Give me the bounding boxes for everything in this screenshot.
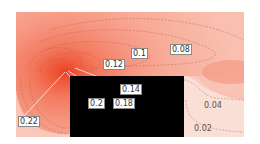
contour-label: 0.02 [193, 124, 213, 133]
contour-label: 0.2 [88, 98, 105, 109]
contour-label: 0.1 [131, 48, 148, 59]
contour-label: 0.12 [103, 59, 125, 70]
contour-label: 0.14 [120, 84, 142, 95]
contour-label: 0.18 [113, 98, 135, 109]
contour-label: 0.22 [18, 116, 40, 127]
contour-label: 0.08 [170, 44, 192, 55]
contour-label: 0.04 [203, 101, 223, 110]
